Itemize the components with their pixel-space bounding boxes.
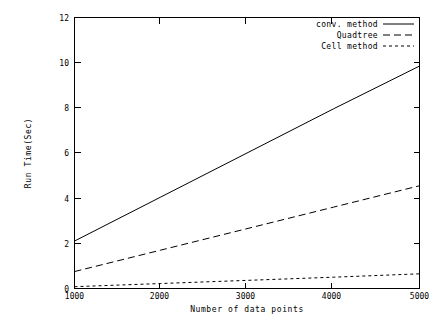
series-group [75, 66, 420, 287]
y-tick-label-12: 12 [59, 14, 69, 23]
chart-page: 0 2 4 6 8 10 12 Run Time( [0, 0, 440, 319]
x-tick-label-1000: 1000 [65, 292, 84, 301]
x-tick-label-4000: 4000 [322, 292, 341, 301]
x-tick-group: 1000 2000 3000 4000 5000 [65, 18, 429, 302]
y-axis: 0 2 4 6 8 10 12 Run Time( [24, 14, 420, 294]
x-axis-title: Number of data points [190, 305, 304, 314]
x-tick-label-3000: 3000 [236, 292, 255, 301]
series-line-quadtree [75, 186, 420, 272]
y-axis-title: Run Time(Sec) [24, 118, 33, 188]
legend-label-cell-method: Cell method [321, 42, 378, 51]
y-tick-label-10: 10 [59, 59, 69, 68]
y-tick-label-2: 2 [64, 240, 69, 249]
legend-label-quadtree: Quadtree [337, 31, 378, 40]
x-tick-label-2000: 2000 [150, 292, 169, 301]
series-line-cell-method [75, 274, 420, 287]
y-tick-label-6: 6 [64, 149, 69, 158]
legend-label-conv-method: conv. method [316, 20, 378, 29]
run-time-line-chart: 0 2 4 6 8 10 12 Run Time( [0, 0, 440, 319]
legend: conv. method Quadtree Cell method [316, 20, 414, 51]
series-line-conv-method [75, 66, 420, 241]
x-tick-label-5000: 5000 [410, 292, 429, 301]
y-tick-group: 0 2 4 6 8 10 12 [59, 14, 419, 294]
y-tick-label-8: 8 [64, 104, 69, 113]
y-tick-label-4: 4 [64, 195, 69, 204]
x-axis: 1000 2000 3000 4000 5000 Number of data … [65, 18, 429, 315]
